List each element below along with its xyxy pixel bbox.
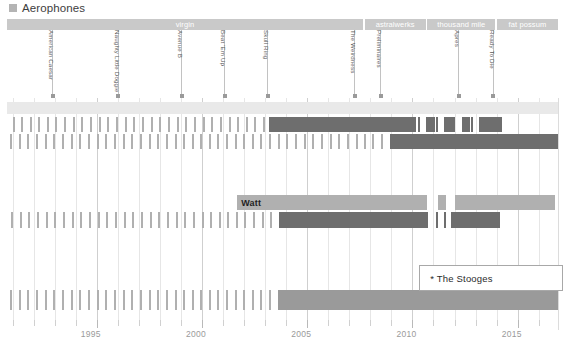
activity-tick [347, 134, 349, 149]
activity-tick [89, 212, 91, 228]
activity-run[interactable] [278, 290, 558, 310]
activity-tick [142, 117, 144, 132]
activity-tick [37, 212, 39, 228]
activity-run[interactable] [451, 212, 500, 228]
activity-tick [269, 290, 271, 310]
activity-tick [177, 117, 179, 132]
activity-tick [55, 117, 57, 132]
activity-tick [123, 290, 125, 310]
activity-tick [269, 134, 271, 149]
album-title: Avenue B [177, 30, 184, 58]
activity-tick [217, 290, 219, 310]
activity-tick [243, 134, 245, 149]
x-tick-minor [328, 320, 329, 326]
activity-tick [453, 117, 455, 132]
activity-tick [237, 117, 239, 132]
activity-tick [97, 134, 99, 149]
activity-tick [72, 212, 74, 228]
x-tick-minor [433, 320, 434, 326]
activity-tick [105, 134, 107, 149]
activity-run[interactable] [279, 212, 428, 228]
album-markers: American CaesarNaughty Little DoggieAven… [0, 30, 565, 98]
square-swatch-icon [9, 4, 17, 12]
activity-tick [30, 117, 32, 132]
activity-tick [10, 134, 12, 149]
activity-tick [253, 212, 255, 228]
activity-tick [63, 212, 65, 228]
activity-tick [73, 117, 75, 132]
activity-tick [444, 212, 446, 228]
activity-run[interactable] [426, 117, 435, 132]
activity-tick [98, 212, 100, 228]
x-tick-minor [223, 320, 224, 326]
activity-tick [210, 212, 212, 228]
activity-run[interactable] [237, 195, 427, 210]
activity-tick [176, 212, 178, 228]
activity-run[interactable] [462, 117, 471, 132]
activity-tick [436, 117, 438, 132]
activity-tick [295, 134, 297, 149]
activity-tick [11, 212, 13, 228]
label-segment-text: fat possum [509, 19, 547, 30]
activity-tick [356, 134, 358, 149]
activity-run[interactable] [390, 134, 558, 149]
activity-tick [107, 117, 109, 132]
gridline-minor [139, 98, 140, 320]
activity-tick [372, 134, 374, 149]
activity-tick [229, 117, 231, 132]
activity-tick [115, 212, 117, 228]
label-segment-thousand-mile[interactable]: thousand mile [427, 19, 495, 30]
activity-tick [114, 134, 116, 149]
activity-tick [211, 117, 213, 132]
album-title: Skull Ring [263, 30, 270, 59]
activity-tick [149, 290, 151, 310]
activity-run[interactable] [444, 117, 453, 132]
activity-run[interactable] [438, 195, 446, 210]
activity-tick [200, 134, 202, 149]
x-tick-minor [244, 320, 245, 326]
activity-tick [338, 134, 340, 149]
activity-run[interactable] [455, 195, 555, 210]
activity-tick [166, 290, 168, 310]
album-title: American Caesar [48, 30, 55, 80]
activity-tick [140, 134, 142, 149]
label-segment-virgin[interactable]: virgin [7, 19, 363, 30]
album-title: Preliminaires [376, 30, 383, 68]
label-segment-text: thousand mile [437, 19, 485, 30]
activity-tick [133, 117, 135, 132]
activity-tick [278, 134, 280, 149]
activity-tick [20, 212, 22, 228]
x-axis-label: 2015 [502, 329, 522, 339]
activity-tick [168, 117, 170, 132]
activity-run[interactable] [479, 117, 502, 132]
activity-tick [220, 117, 222, 132]
activity-tick [185, 117, 187, 132]
activity-tick [381, 134, 383, 149]
album-title: Apres [454, 30, 461, 47]
x-axis: 19952000200520102015 [7, 320, 558, 348]
activity-tick [45, 134, 47, 149]
album-title: Ready To Die [489, 30, 496, 69]
x-tick-major [307, 320, 308, 328]
label-segment-astralwerks[interactable]: astralwerks [365, 19, 426, 30]
label-segment-text: astralwerks [376, 19, 415, 30]
x-axis-label: 2005 [291, 329, 311, 339]
x-axis-label: 1995 [81, 329, 101, 339]
activity-tick [19, 134, 21, 149]
activity-tick [183, 290, 185, 310]
activity-tick [62, 290, 64, 310]
label-segment-fat-possum[interactable]: fat possum [497, 19, 558, 30]
activity-tick [418, 117, 420, 132]
x-tick-major [202, 320, 203, 328]
activity-tick [175, 290, 177, 310]
x-axis-label: 2000 [186, 329, 206, 339]
activity-tick [105, 290, 107, 310]
x-tick-minor [34, 320, 35, 326]
activity-tick [202, 212, 204, 228]
activity-tick [167, 212, 169, 228]
activity-tick [124, 212, 126, 228]
activity-tick [53, 290, 55, 310]
activity-tick [158, 212, 160, 228]
activity-tick [194, 117, 196, 132]
activity-run[interactable] [269, 117, 416, 132]
